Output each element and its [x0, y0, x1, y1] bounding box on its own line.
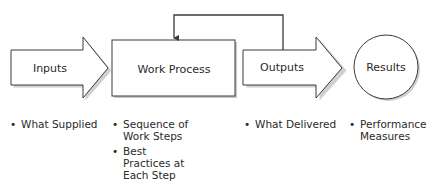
- bullet-item: Sequence of Work Steps: [112, 118, 194, 142]
- work-process-label: Work Process: [137, 63, 210, 76]
- outputs-bullets: What Delivered: [244, 118, 336, 133]
- outputs-label: Outputs: [260, 61, 304, 74]
- bullet-item: What Supplied: [10, 118, 98, 130]
- results-label: Results: [366, 61, 406, 74]
- process-diagram: [0, 0, 432, 184]
- results-bullets: Performance Measures: [349, 118, 431, 145]
- work-process-bullets: Sequence of Work Steps Best Practices at…: [112, 118, 194, 184]
- bullet-item: What Delivered: [244, 118, 336, 130]
- inputs-label: Inputs: [33, 62, 67, 75]
- inputs-bullets: What Supplied: [10, 118, 98, 133]
- bullet-item: Performance Measures: [349, 118, 431, 142]
- bullet-item: Best Practices at Each Step: [112, 145, 194, 181]
